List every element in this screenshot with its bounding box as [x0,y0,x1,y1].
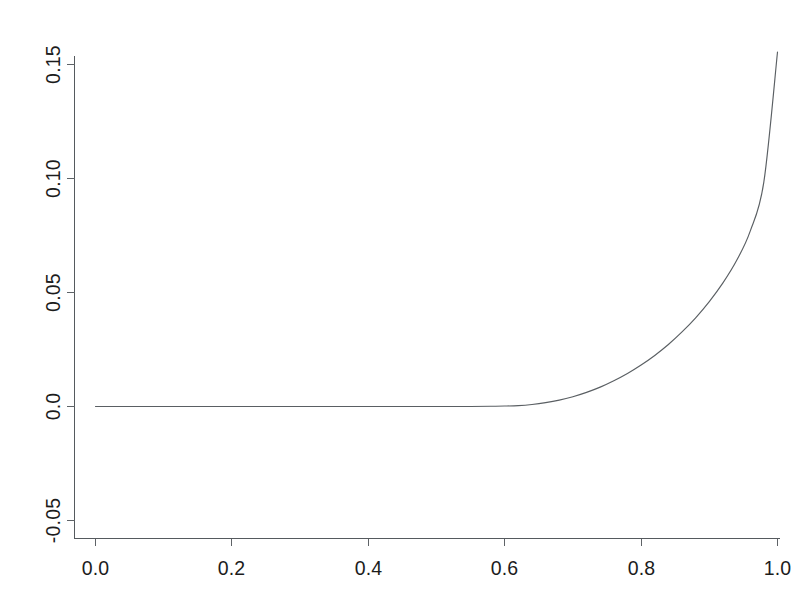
chart-figure: 0.15 0.10 0.05 0.0 -0.05 0.0 0.2 0.4 0.6… [0,0,811,612]
x-tick-label-0.8: 0.8 [628,557,656,579]
x-tick-label-1.0: 1.0 [764,557,792,579]
plot-canvas: 0.15 0.10 0.05 0.0 -0.05 0.0 0.2 0.4 0.6… [0,0,811,612]
x-tick-marks [96,539,778,547]
y-tick-label-0.0: 0.0 [42,393,64,421]
x-tick-label-0.4: 0.4 [355,557,383,579]
data-curve-line [96,52,778,407]
y-tick-label-0.05: 0.05 [42,273,64,312]
x-tick-label-0.6: 0.6 [491,557,519,579]
x-tick-label-0.0: 0.0 [82,557,110,579]
y-tick-label--0.05: -0.05 [42,498,64,543]
y-tick-label-0.15: 0.15 [42,45,64,84]
y-tick-label-0.10: 0.10 [42,159,64,198]
y-tick-labels: 0.15 0.10 0.05 0.0 -0.05 [42,45,64,543]
y-tick-marks [67,65,75,521]
x-tick-labels: 0.0 0.2 0.4 0.6 0.8 1.0 [82,557,792,579]
x-tick-label-0.2: 0.2 [218,557,246,579]
